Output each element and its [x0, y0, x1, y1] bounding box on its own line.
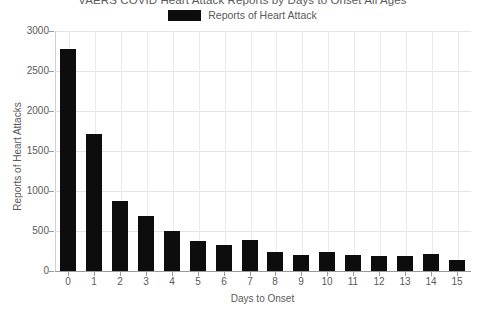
x-tick-mark-0 — [68, 272, 69, 276]
x-tick-mark-1 — [94, 272, 95, 276]
y-tick-mark-2000 — [49, 111, 54, 112]
y-tick-label-3000: 3000 — [5, 26, 49, 36]
y-tick-label-0: 0 — [5, 266, 49, 276]
bar-day-0[interactable] — [60, 49, 76, 271]
bar-day-6[interactable] — [216, 245, 232, 271]
bar-day-1[interactable] — [86, 134, 102, 271]
x-tick-mark-15 — [457, 272, 458, 276]
x-tick-label-15: 15 — [442, 276, 472, 287]
x-tick-mark-12 — [379, 272, 380, 276]
bar-day-11[interactable] — [345, 255, 361, 271]
x-axis-title: Days to Onset — [55, 293, 470, 304]
legend-swatch-reports-of-heart-attack — [168, 10, 201, 21]
bar-day-9[interactable] — [293, 255, 309, 271]
x-tick-mark-6 — [224, 272, 225, 276]
y-axis-title: Reports of Heart Attacks — [12, 77, 23, 237]
x-tick-mark-13 — [405, 272, 406, 276]
x-tick-mark-2 — [120, 272, 121, 276]
bar-day-14[interactable] — [423, 254, 439, 271]
y-tick-mark-3000 — [49, 31, 54, 32]
x-tick-mark-7 — [250, 272, 251, 276]
y-tick-mark-2500 — [49, 71, 54, 72]
x-tick-mark-9 — [301, 272, 302, 276]
bar-day-2[interactable] — [112, 201, 128, 271]
x-tick-mark-4 — [172, 272, 173, 276]
bar-day-8[interactable] — [267, 252, 283, 271]
y-tick-mark-500 — [49, 231, 54, 232]
bar-day-12[interactable] — [371, 256, 387, 271]
bar-day-5[interactable] — [190, 241, 206, 271]
bar-day-7[interactable] — [242, 240, 258, 271]
y-tick-mark-0 — [49, 271, 54, 272]
bar-day-4[interactable] — [164, 231, 180, 271]
x-tick-mark-14 — [431, 272, 432, 276]
bar-day-13[interactable] — [397, 256, 413, 271]
y-tick-mark-1000 — [49, 191, 54, 192]
chart-figure: VAERS COVID Heart Attack Reports by Days… — [0, 0, 485, 317]
chart-legend: Reports of Heart Attack — [0, 9, 485, 21]
x-tick-mark-3 — [146, 272, 147, 276]
x-tick-mark-11 — [353, 272, 354, 276]
y-tick-label-2500: 2500 — [5, 66, 49, 76]
bar-day-10[interactable] — [319, 252, 335, 271]
legend-label-reports-of-heart-attack: Reports of Heart Attack — [208, 9, 317, 21]
y-axis-tick-labels: 050010001500200025003000 — [0, 31, 49, 271]
y-tick-mark-1500 — [49, 151, 54, 152]
x-axis-line — [55, 271, 471, 272]
x-tick-mark-10 — [327, 272, 328, 276]
x-tick-mark-8 — [275, 272, 276, 276]
chart-title: VAERS COVID Heart Attack Reports by Days… — [0, 0, 485, 6]
bar-day-15[interactable] — [449, 260, 465, 271]
bar-day-3[interactable] — [138, 216, 154, 271]
bars-layer — [55, 31, 470, 271]
x-tick-mark-5 — [198, 272, 199, 276]
